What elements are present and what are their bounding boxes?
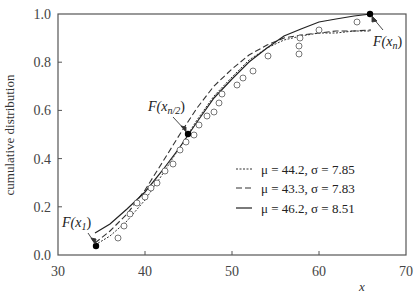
y-tick-label: 1.0 (34, 7, 52, 22)
x-tick-labels: 30 40 50 60 70 (51, 264, 413, 279)
highlight-point-first (93, 243, 99, 249)
y-tick-label: 0.0 (34, 248, 52, 263)
cdf-chart: 0.0 0.2 0.4 0.6 0.8 1.0 30 40 50 60 70 x… (0, 0, 420, 300)
legend: μ = 44.2, σ = 7.85 μ = 43.3, σ = 7.83 μ … (236, 162, 355, 216)
y-tick-label: 0.4 (34, 152, 52, 167)
x-axis-title: x (358, 279, 365, 294)
y-tick-labels: 0.0 0.2 0.4 0.6 0.8 1.0 (34, 7, 52, 263)
legend-label: μ = 46.2, σ = 8.51 (261, 201, 355, 216)
y-tick-label: 0.6 (34, 103, 52, 118)
y-tick-label: 0.2 (34, 200, 52, 215)
y-tick-label: 0.8 (34, 55, 52, 70)
x-tick-label: 40 (138, 264, 152, 279)
y-axis-title: cumulative distribution (2, 74, 17, 195)
plot-frame (58, 14, 406, 255)
x-tick-label: 50 (225, 264, 239, 279)
x-tick-label: 30 (51, 264, 65, 279)
annotation-median-point: F(xn/2) (147, 99, 185, 116)
x-axis (145, 251, 319, 255)
annotation-last-point: F(xn) (372, 34, 402, 51)
x-tick-label: 70 (399, 264, 413, 279)
annotation-first-point: F(x1) (61, 215, 91, 232)
legend-label: μ = 43.3, σ = 7.83 (261, 181, 355, 196)
x-tick-label: 60 (312, 264, 326, 279)
legend-label: μ = 44.2, σ = 7.85 (261, 162, 355, 177)
